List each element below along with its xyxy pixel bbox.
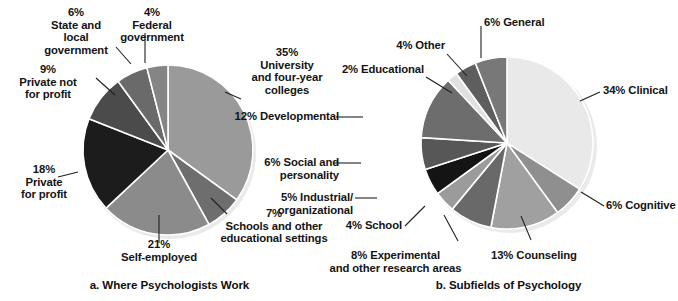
callout-private-not-for-profit: 9% Private not for profit <box>2 63 94 101</box>
callout-clinical: 34% Clinical <box>603 84 678 97</box>
callout-general: 6% General <box>484 16 594 29</box>
leader-experimental <box>444 215 458 241</box>
callout-counseling: 13% Counseling <box>491 249 611 262</box>
panel-subfields-of-psychology: 6% General 4% Other 2% Educational 12% D… <box>339 0 678 301</box>
panel-where-psychologists-work: 6% State and local government 4% Federal… <box>0 0 339 301</box>
callout-self-employed: 21% Self-employed <box>109 238 209 263</box>
callout-social-and-personality: 6% Social and personality <box>225 156 339 181</box>
callout-federal-government: 4% Federal government <box>113 6 191 44</box>
caption-panel-a: a. Where Psychologists Work <box>0 278 339 291</box>
caption-panel-b: b. Subfields of Psychology <box>339 278 678 291</box>
callout-cognitive: 6% Cognitive <box>606 199 678 212</box>
leader-clinical <box>580 92 600 101</box>
leader-school <box>405 206 425 226</box>
leader-cognitive <box>581 192 604 206</box>
callout-developmental: 12% Developmental <box>221 110 339 123</box>
callout-experimental-and-other-research-areas: 8% Experimental and other research areas <box>307 249 484 274</box>
psychology-pie-figure: 6% State and local government 4% Federal… <box>0 0 678 301</box>
callout-industrial-organizational: 5% Industrial/ organizational <box>249 191 353 216</box>
callout-school: 4% School <box>323 219 402 232</box>
callout-other: 4% Other <box>357 39 445 52</box>
callout-educational: 2% Educational <box>327 63 424 76</box>
callout-private-for-profit: 18% Private for profit <box>7 163 81 201</box>
pie-b-slice-group <box>421 57 593 229</box>
callout-university-and-four-year-colleges: 35% University and four-year colleges <box>237 46 337 96</box>
